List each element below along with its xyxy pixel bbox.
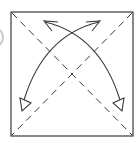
edge-fragment <box>0 30 3 45</box>
curved-arrow-icon <box>44 21 124 111</box>
origami-diagram <box>0 0 140 143</box>
curved-arrow-icon <box>20 21 100 111</box>
